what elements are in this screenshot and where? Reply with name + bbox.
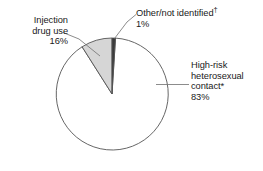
- pie-label-other-not-identified-text: Other/not identified: [136, 8, 214, 18]
- pie-label-high-risk-heterosexual-contact-line1: High-risk: [191, 60, 244, 71]
- pie-label-injection-drug-use-line2: drug use: [6, 26, 68, 37]
- leader-line-other-not-identified: [115, 15, 137, 39]
- pie-label-high-risk-heterosexual-contact: High-risk heterosexual contact* 83%: [191, 60, 244, 102]
- pie-label-injection-drug-use: Injection drug use 16%: [6, 15, 68, 47]
- pie-label-other-not-identified-value: 1%: [136, 19, 218, 30]
- pie-label-other-not-identified-line1: Other/not identified†: [136, 8, 218, 19]
- pie-chart-figure: Injection drug use 16% Other/not identif…: [0, 0, 263, 171]
- pie-label-high-risk-heterosexual-contact-line2: heterosexual: [191, 71, 244, 82]
- pie-label-high-risk-heterosexual-contact-line3: contact*: [191, 81, 244, 92]
- pie-label-high-risk-heterosexual-contact-value: 83%: [191, 92, 244, 103]
- pie-label-injection-drug-use-line1: Injection: [6, 15, 68, 26]
- pie-label-injection-drug-use-value: 16%: [6, 36, 68, 47]
- dagger-footnote-marker: †: [214, 5, 218, 14]
- pie-label-other-not-identified: Other/not identified† 1%: [136, 8, 218, 29]
